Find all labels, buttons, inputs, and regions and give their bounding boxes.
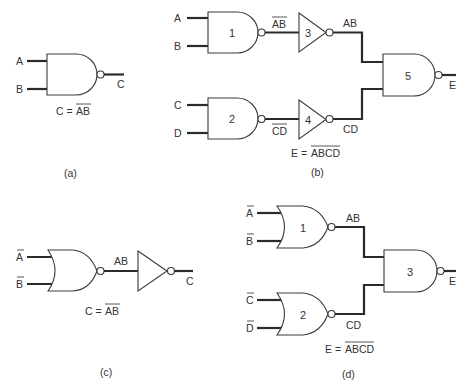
formula-lhs: C = [85, 305, 102, 317]
inversion-bubble-icon [258, 116, 265, 123]
gate-2-label: 2 [229, 113, 235, 125]
inversion-bubble-icon [258, 29, 265, 36]
inversion-bubble-icon [326, 116, 333, 123]
output-c-label: C [186, 275, 194, 287]
panel-a: A B C C = AB (a) [16, 54, 125, 179]
inversion-bubble-icon [328, 224, 335, 231]
panel-c: A B AB C C = AB (c) [16, 250, 194, 378]
formula-lhs: E = [325, 343, 341, 355]
nor-gate-icon [48, 250, 97, 291]
signal-cd-label: CD [343, 123, 359, 135]
caption-d: (d) [342, 368, 355, 380]
input-d-label: D [174, 127, 182, 139]
input-a-label: A [16, 55, 23, 67]
inversion-bubble-icon [435, 72, 442, 79]
gate-3-label: 3 [305, 27, 311, 39]
output-e-label: E [449, 79, 456, 91]
gate-3-label: 3 [407, 266, 413, 278]
gate-5-label: 5 [405, 70, 411, 82]
logic-gate-figure: A B C C = AB (a) A B 1 AB 3 AB C D 2 [0, 0, 466, 392]
input-a-bar-label: A [246, 207, 253, 219]
caption-b: (b) [311, 166, 324, 178]
formula-rhs: AB [76, 105, 90, 117]
inverter-icon [138, 251, 167, 291]
nand-gate-icon [47, 54, 97, 95]
signal-ab-bar-label: AB [272, 18, 286, 30]
input-b-label: B [174, 40, 181, 52]
inverter-4-icon [299, 100, 326, 139]
input-a-bar-label: A [16, 251, 23, 263]
caption-c: (c) [100, 366, 112, 378]
signal-ab-label: AB [114, 255, 128, 267]
inversion-bubble-icon [97, 268, 104, 275]
inverter-3-icon [299, 13, 326, 52]
inversion-bubble-icon [326, 29, 333, 36]
wire [335, 227, 384, 257]
input-b-bar-label: B [16, 278, 23, 290]
formula-rhs: ABCD [311, 147, 341, 159]
wire [333, 89, 383, 119]
signal-ab-label: AB [346, 212, 360, 224]
input-a-label: A [174, 12, 181, 24]
input-d-bar-label: D [246, 322, 254, 334]
input-b-label: B [16, 83, 23, 95]
formula-lhs: E = [291, 147, 307, 159]
inversion-bubble-icon [328, 311, 335, 318]
inversion-bubble-icon [437, 268, 444, 275]
gate-1-label: 1 [300, 222, 306, 234]
formula-rhs: ABCD [345, 343, 375, 355]
panel-b: A B 1 AB 3 AB C D 2 CD 4 CD 5 E [174, 12, 456, 178]
panel-d: A B 1 AB C D 2 CD 3 E E = ABCD (d) [246, 206, 456, 380]
signal-cd-bar-label: CD [272, 125, 288, 137]
signal-ab-label: AB [343, 17, 357, 29]
wire [335, 285, 384, 314]
input-c-bar-label: C [246, 294, 254, 306]
formula-lhs: C = [56, 105, 73, 117]
gate-1-label: 1 [229, 27, 235, 39]
wire [333, 33, 383, 63]
formula-rhs: AB [105, 305, 119, 317]
input-c-label: C [174, 99, 182, 111]
gate-2-label: 2 [300, 309, 306, 321]
output-c-label: C [117, 78, 125, 90]
caption-a: (a) [64, 167, 77, 179]
inversion-bubble-icon [168, 268, 175, 275]
output-e-label: E [449, 275, 456, 287]
gate-4-label: 4 [305, 114, 311, 126]
input-b-bar-label: B [246, 235, 253, 247]
signal-cd-label: CD [346, 319, 362, 331]
inversion-bubble-icon [97, 71, 104, 78]
